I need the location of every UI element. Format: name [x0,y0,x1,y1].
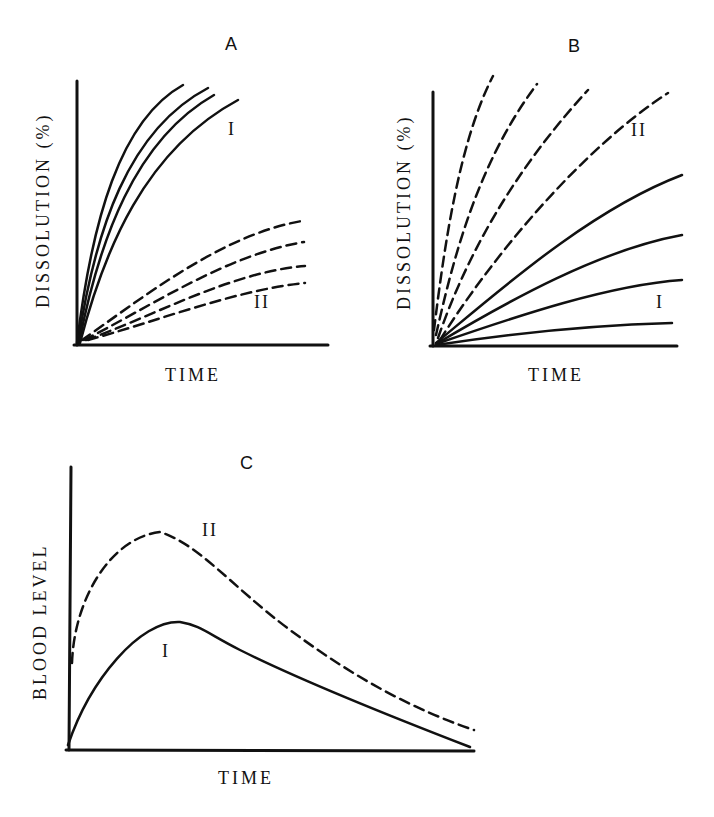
panel-c-x-label: TIME [218,768,274,789]
panel-a-x-label: TIME [165,365,221,386]
panel-b-curve-i-2 [436,235,682,344]
panel-a-label-i: I [228,119,236,140]
panel-a-title: A [225,34,237,55]
panel-b-x-label: TIME [528,365,584,386]
panel-a-label-ii: II [254,292,270,313]
panel-c-y-axis [69,467,71,750]
panel-c-curve-i [68,622,470,747]
panel-a-plot [74,81,328,345]
panel-c-x-axis [66,750,474,751]
panel-b-title: B [568,36,580,57]
panel-c-y-label: BLOOD LEVEL [30,544,51,700]
panel-b-y-label: DISSOLUTION (%) [394,115,415,310]
panel-b-plot [430,76,682,346]
panel-a-curve-ii-2 [84,242,304,340]
panel-c-title: C [240,453,253,474]
panel-b-curve-ii-1 [434,76,493,330]
panel-a-curve-ii-3 [86,266,305,340]
panel-c-curve-ii [72,532,474,730]
panel-c-label-i: I [162,641,170,662]
panel-b-curve-i-4 [436,323,672,345]
panel-a-curve-i-2 [78,88,208,343]
panel-c-label-ii: II [202,520,218,541]
panel-b-curve-i-1 [436,175,682,343]
panel-a-y-label: DISSOLUTION (%) [33,113,54,308]
panel-a-curve-i-4 [80,100,238,343]
panel-a-curve-i-1 [77,85,183,343]
panel-b-label-ii: II [631,120,647,141]
figure-canvas [0,0,714,817]
panel-b-label-i: I [656,292,664,313]
panel-c-plot [66,467,474,751]
